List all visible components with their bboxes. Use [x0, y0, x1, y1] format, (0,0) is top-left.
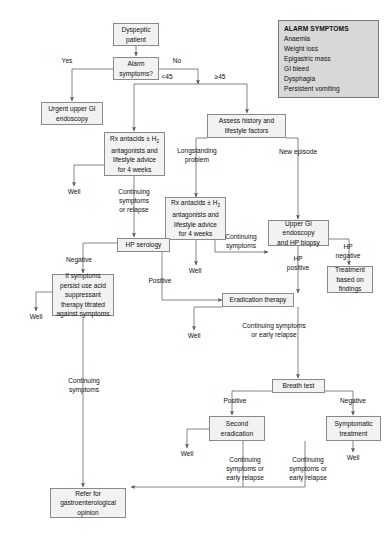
alarm-item-weight-loss: Weight loss [284, 44, 373, 54]
alarm-symptoms-panel: ALARM SYMPTOMS Anaemia Weight loss Epiga… [278, 20, 379, 98]
node-alarm-symptoms: Alarm symptoms? [113, 57, 159, 80]
edge-label-well-6: Well [340, 453, 366, 462]
node-acid-suppressant-therapy: If symptoms persist use acid suppressant… [52, 274, 114, 316]
rx1-line1: Rx antacids ± H2 [110, 134, 159, 146]
edge-label-hp-negative: HP negative [331, 242, 365, 260]
edge-label-yes: Yes [54, 56, 80, 65]
edge-label-well-2: Well [182, 266, 208, 275]
node-eradication-therapy: Eradication therapy [222, 293, 294, 307]
node-rx-antacids-lifestyle-1: Rx antacids ± H2 antagonists and lifesty… [104, 132, 165, 176]
alarm-panel-heading: ALARM SYMPTOMS [284, 24, 373, 34]
edge-label-breath-negative: Negative [332, 396, 374, 405]
alarm-item-epigastric-mass: Epigastric mass [284, 54, 373, 64]
edge-label-well-3: Well [23, 312, 49, 321]
edge-label-well-5: Well [174, 449, 200, 458]
edge-label-continuing-symptoms-1: Continuing symptoms [218, 232, 264, 250]
edge-label-hp-positive: HP positive [283, 254, 313, 272]
edge-label-well-1: Well [61, 187, 87, 196]
alarm-item-persistent-vomiting: Persistent vomiting [284, 84, 373, 94]
rx2-line1: Rx antacids ± H2 [171, 198, 220, 210]
edge-label-new-episode: New episode [272, 147, 324, 156]
edge-label-continuing-symptoms-2: Continuing symptoms [61, 376, 107, 394]
edge-label-continuing-early-relapse-1: Continuing symptoms or early relapse [228, 321, 320, 339]
node-dyspeptic-patient: Dyspeptic patient [113, 23, 159, 46]
edge-label-continuing-early-relapse-2: Continuing symptoms or early relapse [222, 455, 268, 483]
edge-label-positive-serology: Positive [140, 276, 180, 285]
rx1-rest: antagonists and lifestyle advice for 4 w… [111, 146, 158, 175]
edge-label-over-45: ≥45 [207, 72, 233, 81]
node-urgent-upper-gi-endoscopy: Urgent upper GI endoscopy [41, 102, 103, 125]
node-upper-gi-endoscopy-hp-biopsy: Upper GI endoscopy and HP biopsy [268, 220, 329, 246]
node-rx-antacids-lifestyle-2: Rx antacids ± H2 antagonists and lifesty… [165, 197, 226, 240]
edge-label-breath-positive: Positive [216, 396, 254, 405]
alarm-item-dysphagia: Dysphagia [284, 74, 373, 84]
node-assess-history-lifestyle: Assess history and lifestyle factors [207, 114, 286, 138]
rx2-rest: antagonists and lifestyle advice for 4 w… [172, 210, 219, 239]
node-second-eradication: Second eradication [209, 416, 265, 441]
node-breath-test: Breath test [272, 379, 325, 393]
alarm-item-gi-bleed: GI bleed [284, 64, 373, 74]
node-refer-gastroenterological-opinion: Refer for gastroenterological opinion [50, 488, 126, 518]
node-hp-serology: HP serology [117, 238, 170, 252]
node-symptomatic-treatment: Symptomatic treatment [326, 416, 381, 441]
alarm-item-anaemia: Anaemia [284, 34, 373, 44]
edge-label-negative-serology: Negative [59, 255, 99, 264]
dyspepsia-flowchart: ALARM SYMPTOMS Anaemia Weight loss Epiga… [0, 0, 390, 540]
edge-label-continuing-early-relapse-3: Continuing symptoms or early relapse [285, 455, 331, 483]
edge-label-continuing-symptoms-or-relapse: Continuing symptoms or relapse [111, 187, 157, 215]
edge-label-under-45: <45 [154, 72, 180, 81]
edge-label-no: No [164, 56, 190, 65]
edge-label-well-4: Well [181, 331, 207, 340]
edge-label-longstanding-problem: Longstanding problem [168, 146, 226, 164]
node-treatment-based-on-findings: Treatment based on findings [327, 266, 373, 293]
